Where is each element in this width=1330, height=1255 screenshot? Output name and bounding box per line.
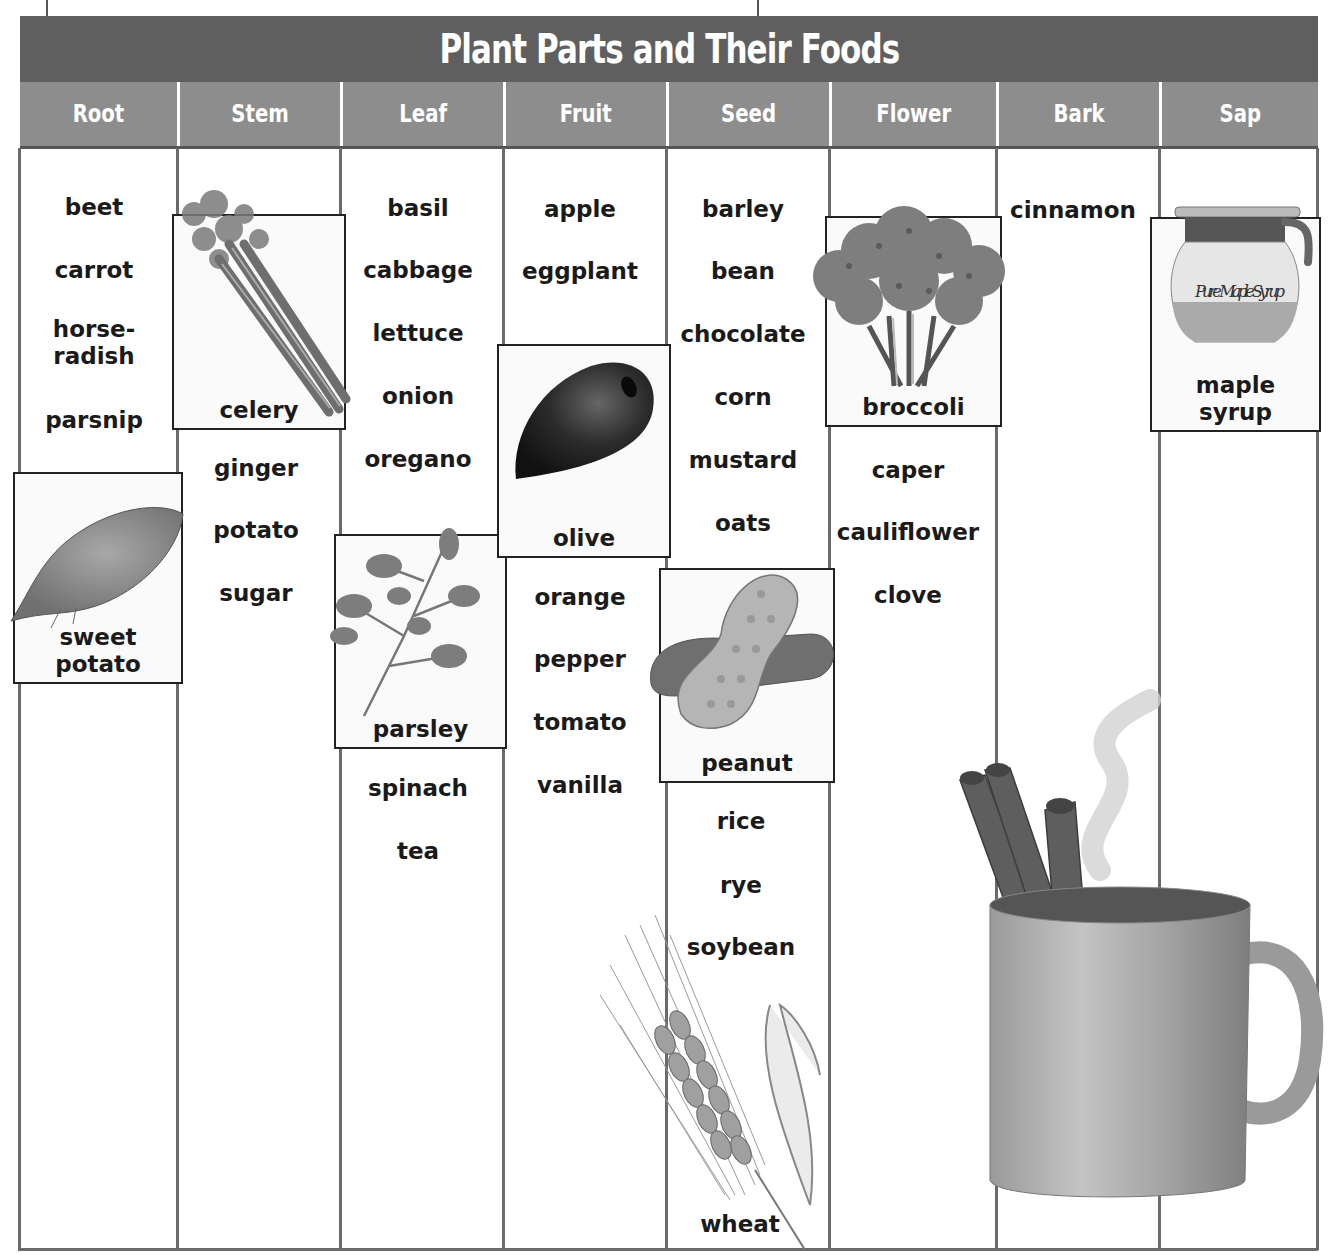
- food-clove: clove: [874, 582, 942, 609]
- food-barley: barley: [702, 196, 784, 223]
- food-wheat: wheat: [700, 1211, 780, 1238]
- food-rice: rice: [717, 808, 765, 835]
- featured-olive: olive: [497, 344, 671, 558]
- featured-celery: celery: [172, 214, 346, 430]
- food-sugar: sugar: [219, 580, 292, 607]
- page-title: Plant Parts and Their Foods: [439, 26, 899, 72]
- food-pepper: pepper: [534, 646, 626, 673]
- food-spinach: spinach: [368, 775, 468, 802]
- header-stem: Stem: [180, 82, 340, 146]
- food-corn: corn: [714, 384, 771, 411]
- featured-parsley: parsley: [334, 534, 507, 749]
- featured-label: parsley: [336, 716, 505, 743]
- header-leaf: Leaf: [343, 82, 503, 146]
- wheat-illustration: [595, 905, 835, 1250]
- food-caper: caper: [872, 457, 945, 484]
- food-lettuce: lettuce: [372, 320, 463, 347]
- food-beet: beet: [65, 194, 124, 221]
- peanut-illustration: [641, 564, 841, 734]
- food-cinnamon: cinnamon: [1010, 197, 1136, 224]
- food-basil: basil: [387, 195, 448, 222]
- featured-peanut: peanut: [659, 568, 835, 783]
- header-fruit: Fruit: [506, 82, 666, 146]
- food-horseradish: horse-radish: [53, 316, 135, 370]
- food-oats: oats: [715, 510, 771, 537]
- food-parsnip: parsnip: [45, 407, 143, 434]
- food-tea: tea: [397, 838, 439, 865]
- food-vanilla: vanilla: [537, 772, 623, 799]
- maple-syrup-jar-illustration: Pure Maple Syrup: [1170, 207, 1315, 352]
- column-header-row: Root Stem Leaf Fruit Seed Flower Bark Sa…: [20, 82, 1318, 149]
- broccoli-illustration: [809, 206, 1009, 391]
- header-flower: Flower: [832, 82, 996, 146]
- food-potato: potato: [213, 517, 299, 544]
- food-cabbage: cabbage: [363, 257, 473, 284]
- cinnamon-mug-illustration: [950, 690, 1325, 1210]
- featured-broccoli: broccoli: [825, 216, 1002, 427]
- header-bark: Bark: [999, 82, 1159, 146]
- food-onion: onion: [382, 383, 454, 410]
- food-apple: apple: [544, 196, 616, 223]
- food-oregano: oregano: [365, 446, 472, 473]
- food-carrot: carrot: [55, 257, 134, 284]
- parsley-illustration: [324, 526, 484, 726]
- food-cauliflower: cauliflower: [837, 519, 979, 546]
- chart-title-bar: Plant Parts and Their Foods: [20, 16, 1318, 82]
- olive-illustration: [511, 354, 661, 484]
- featured-sweet-potato: sweetpotato: [13, 472, 183, 684]
- featured-label: broccoli: [827, 394, 1000, 421]
- header-seed: Seed: [669, 82, 829, 146]
- featured-label: peanut: [661, 750, 833, 777]
- food-eggplant: eggplant: [522, 258, 638, 285]
- header-sap: Sap: [1162, 82, 1318, 146]
- featured-maple-syrup: Pure Maple Syrup maplesyrup: [1150, 217, 1321, 432]
- sweet-potato-illustration: [1, 496, 191, 636]
- jar-label: Pure Maple Syrup: [1194, 282, 1285, 301]
- food-rye: rye: [720, 872, 762, 899]
- food-bean: bean: [711, 258, 775, 285]
- featured-label: maplesyrup: [1152, 372, 1319, 426]
- featured-label: celery: [174, 397, 344, 424]
- featured-label: sweetpotato: [15, 624, 181, 678]
- food-ginger: ginger: [214, 455, 298, 482]
- featured-label: olive: [499, 525, 669, 552]
- column-rule: [18, 148, 21, 1250]
- celery-illustration: [174, 184, 354, 424]
- food-chocolate: chocolate: [680, 321, 805, 348]
- food-orange: orange: [534, 584, 625, 611]
- food-mustard: mustard: [689, 447, 797, 474]
- food-tomato: tomato: [533, 709, 626, 736]
- header-root: Root: [20, 82, 177, 146]
